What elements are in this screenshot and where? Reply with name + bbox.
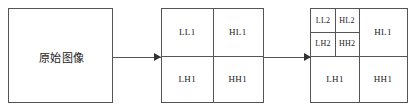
level2-cell-hh1: HH1 [359, 56, 407, 103]
original-image-label: 原始图像 [9, 9, 114, 104]
arrow-right-icon-1 [113, 52, 161, 63]
original-image-box: 原始图像 [8, 8, 113, 103]
arrow-head [154, 53, 161, 61]
level2-cell-lh1: LH1 [311, 56, 359, 103]
level2-decomposition-box: LL2 HL2 LH2 HH2 HL1 LH1 HH1 [310, 8, 408, 103]
level1-decomposition-box: LL1 HL1 LH1 HH1 [161, 8, 264, 103]
level1-cell-ll1: LL1 [162, 9, 213, 56]
level2-cell-hl1: HL1 [359, 9, 407, 56]
level2-cell-hh2: HH2 [335, 32, 359, 55]
diagram-canvas: 原始图像 LL1 HL1 LH1 HH1 LL2 HL2 LH2 HH2 HL1… [0, 0, 418, 111]
arrow-right-icon-2 [264, 52, 311, 63]
level2-cell-lh2: LH2 [311, 32, 335, 55]
level2-cell-ll2: LL2 [311, 9, 335, 32]
level2-cell-hl2: HL2 [335, 9, 359, 32]
level1-cell-hh1: HH1 [213, 56, 264, 103]
level1-cell-hl1: HL1 [213, 9, 264, 56]
level1-cell-lh1: LH1 [162, 56, 213, 103]
